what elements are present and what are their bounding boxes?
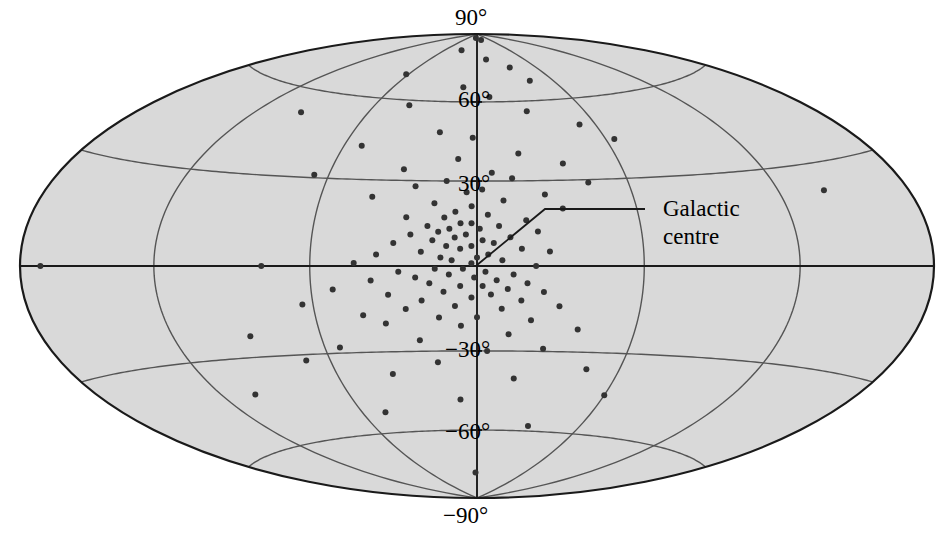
data-point	[535, 229, 541, 235]
data-point	[468, 243, 474, 249]
data-point	[299, 302, 305, 308]
data-point	[373, 251, 379, 257]
data-point	[458, 323, 464, 329]
data-point	[499, 257, 505, 263]
galactic-centre-label-line1: Galactic	[663, 196, 740, 222]
data-point	[575, 326, 581, 332]
data-point	[446, 226, 452, 232]
galactic-centre-label-line2: centre	[663, 224, 719, 250]
data-point	[540, 346, 546, 352]
data-point	[468, 294, 474, 300]
data-point	[431, 200, 437, 206]
latitude-label-90: 90°	[455, 6, 487, 29]
latitude-label-minus-30: −30°	[445, 338, 490, 361]
data-point	[457, 397, 463, 403]
data-point	[390, 240, 396, 246]
data-point	[446, 272, 452, 278]
data-point	[437, 254, 443, 260]
data-point	[455, 156, 461, 162]
data-point	[437, 129, 443, 135]
sky-map-canvas	[0, 0, 947, 541]
data-point	[496, 223, 502, 229]
data-point	[457, 246, 463, 252]
data-point	[494, 277, 500, 283]
data-point	[511, 272, 517, 278]
data-point	[247, 333, 253, 339]
data-point	[583, 366, 589, 372]
data-point	[478, 37, 484, 43]
data-point	[585, 179, 591, 185]
data-point	[252, 392, 258, 398]
data-point	[413, 183, 419, 189]
data-point	[458, 220, 464, 226]
data-point	[449, 257, 455, 263]
data-point	[429, 237, 435, 243]
data-point	[560, 160, 566, 166]
data-point	[443, 243, 449, 249]
latitude-label-30: 30°	[458, 172, 490, 195]
sky-map-figure: 90° 60° 30° −30° −60° −90° Galactic cent…	[0, 0, 947, 541]
data-point	[401, 166, 407, 172]
data-point	[382, 409, 388, 415]
data-point	[298, 109, 304, 115]
data-point	[470, 135, 476, 141]
data-point	[457, 283, 463, 289]
data-point	[417, 337, 423, 343]
data-point	[435, 229, 441, 235]
data-point	[436, 314, 442, 320]
data-point	[524, 108, 530, 114]
data-point	[601, 392, 607, 398]
data-point	[459, 47, 465, 53]
data-point	[527, 78, 533, 84]
data-point	[473, 35, 479, 41]
data-point	[483, 56, 489, 62]
latitude-label-minus-60: −60°	[445, 420, 490, 443]
data-point	[482, 269, 488, 275]
data-point	[506, 331, 512, 337]
data-point	[424, 223, 430, 229]
data-point	[485, 212, 491, 218]
data-point	[480, 283, 486, 289]
data-point	[258, 263, 264, 269]
data-point	[403, 214, 409, 220]
data-point	[311, 172, 317, 178]
data-point	[515, 150, 521, 156]
data-point	[541, 289, 547, 295]
data-point	[303, 357, 309, 363]
data-point	[360, 312, 366, 318]
data-point	[542, 192, 548, 198]
data-point	[406, 102, 412, 108]
data-point	[528, 317, 534, 323]
data-point	[499, 306, 505, 312]
data-point	[37, 263, 43, 269]
data-point	[491, 240, 497, 246]
data-point	[518, 297, 524, 303]
data-point	[472, 469, 478, 475]
data-point	[368, 278, 374, 284]
data-point	[452, 209, 458, 215]
data-point	[505, 286, 511, 292]
data-point	[500, 198, 506, 204]
data-point	[469, 203, 475, 209]
data-point	[403, 306, 409, 312]
data-point	[359, 143, 365, 149]
data-point	[511, 375, 517, 381]
data-point	[440, 289, 446, 295]
data-point	[403, 71, 409, 77]
data-point	[330, 286, 336, 292]
data-point	[611, 136, 617, 142]
data-point	[395, 269, 401, 275]
data-point	[419, 297, 425, 303]
data-point	[525, 423, 531, 429]
data-point	[452, 303, 458, 309]
data-point	[351, 260, 357, 266]
data-point	[474, 254, 480, 260]
data-point	[383, 321, 389, 327]
data-point	[577, 122, 583, 128]
data-point	[556, 303, 562, 309]
data-point	[474, 314, 480, 320]
data-point	[385, 292, 391, 298]
data-point	[426, 280, 432, 286]
data-point	[519, 246, 525, 252]
data-point	[412, 275, 418, 281]
